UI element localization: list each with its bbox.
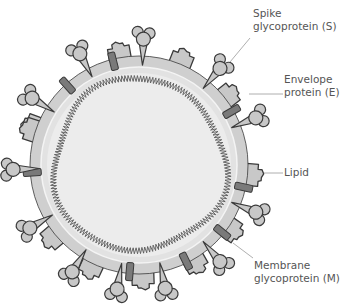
label-spike-glycoprotein: Spike glycoprotein (S) (253, 7, 337, 33)
label-envelope-protein: Envelope protein (E) (284, 73, 340, 99)
label-lipid: Lipid (284, 166, 309, 179)
membrane-glycoprotein-icon (132, 272, 155, 291)
label-membrane-glycoprotein: Membrane glycoprotein (M) (254, 259, 340, 285)
leader-line-spike (230, 38, 250, 62)
viral-core (47, 73, 231, 257)
leader-line-membrane (233, 243, 253, 258)
coronavirus-diagram: Spike glycoprotein (S) Envelope protein … (0, 0, 344, 304)
envelope-protein-icon (125, 262, 134, 281)
